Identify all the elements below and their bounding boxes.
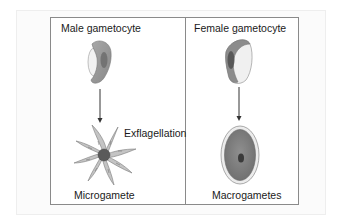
macrogamete-nucleus	[238, 154, 244, 163]
macrogametes-label: Macrogametes	[212, 190, 281, 201]
exflagellation-label: Exflagellation	[124, 128, 186, 139]
female-gametocyte-title: Female gametocyte	[194, 23, 286, 34]
microgamete-nucleus	[98, 149, 110, 161]
gametocyte-diagram	[0, 0, 338, 218]
male-gametocyte-title: Male gametocyte	[61, 23, 141, 34]
panel-frame	[51, 18, 299, 205]
macrogamete-cell	[221, 126, 259, 184]
female-gametocyte-cell	[226, 40, 252, 84]
microgamete-label: Microgamete	[74, 190, 135, 201]
